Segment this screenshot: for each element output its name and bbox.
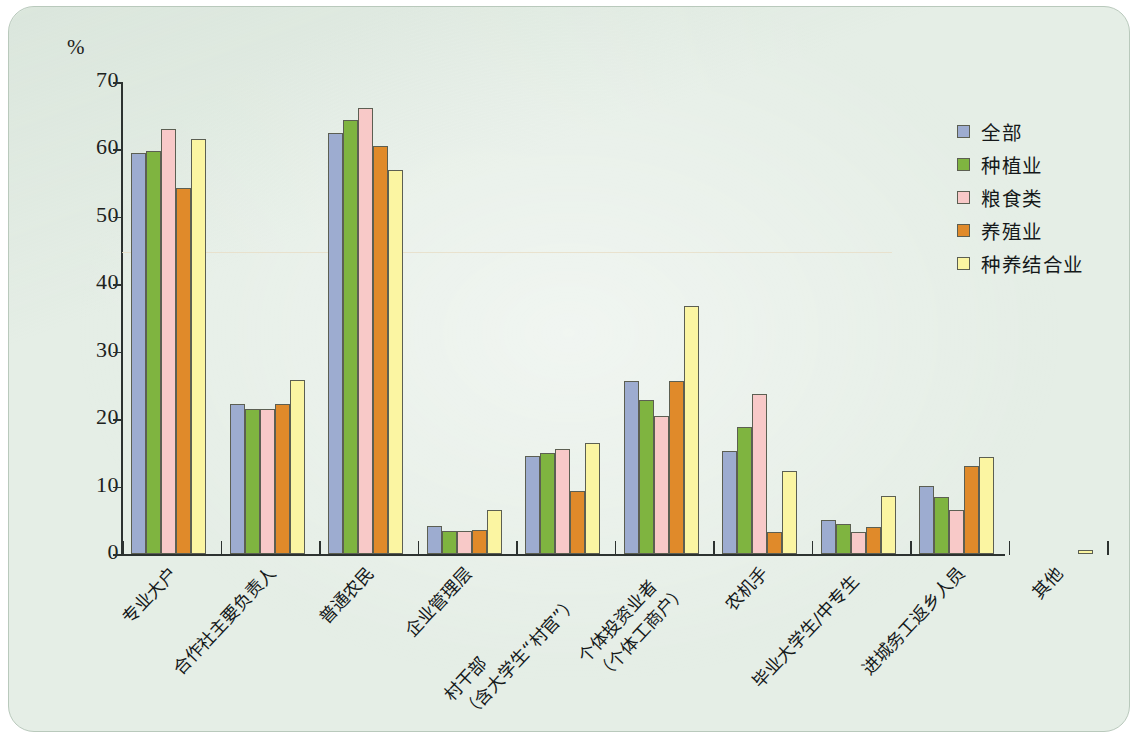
x-axis-category-label: 农机手	[720, 562, 774, 618]
bar	[427, 526, 442, 554]
bar	[964, 466, 979, 554]
legend: 全部种植业粮食类养殖业种养结合业	[957, 115, 1127, 280]
y-axis-tick-label: 40	[59, 269, 119, 295]
x-axis-category-label-line: 其他	[1027, 562, 1069, 605]
bar	[290, 380, 305, 554]
legend-swatch-icon	[957, 224, 970, 237]
legend-item-label: 种养结合业	[981, 249, 1084, 278]
bar-group	[427, 82, 502, 554]
bar	[275, 404, 290, 554]
y-axis-tick: 50	[9, 217, 139, 218]
bar	[639, 400, 654, 554]
bar-group	[525, 82, 600, 554]
bar	[442, 531, 457, 554]
bar	[245, 409, 260, 554]
y-axis-tick-label: 0	[59, 539, 119, 565]
y-axis-tick-mark	[113, 554, 122, 556]
bar	[684, 306, 699, 554]
bar	[472, 530, 487, 554]
bar	[737, 427, 752, 554]
bar-group	[821, 82, 896, 554]
x-axis-category-label: 合作社主要负责人	[168, 562, 282, 682]
bar	[176, 188, 191, 554]
y-axis-tick-label: 20	[59, 404, 119, 430]
bar-group	[624, 82, 699, 554]
x-axis-category-label-line: 专业大户	[117, 562, 183, 631]
bar	[851, 532, 866, 554]
legend-item-label: 养殖业	[981, 216, 1043, 245]
x-axis-category-label-line: 农机手	[720, 562, 774, 618]
x-axis-category-label: 专业大户	[117, 562, 183, 631]
y-axis-tick: 10	[9, 487, 139, 488]
bar	[570, 491, 585, 554]
y-axis-tick-label: 60	[59, 134, 119, 160]
legend-item: 种养结合业	[957, 247, 1127, 280]
x-axis-category-label: 其他	[1027, 562, 1069, 605]
chart-card: % 010203040506070 专业大户合作社主要负责人普通农民企业管理层村…	[8, 6, 1130, 732]
y-axis-tick: 0	[9, 554, 139, 555]
x-axis-category-label: 企业管理层	[400, 562, 478, 643]
legend-swatch-icon	[957, 191, 970, 204]
bar	[767, 532, 782, 554]
bar	[836, 524, 851, 554]
legend-swatch-icon	[957, 125, 970, 138]
legend-item-label: 粮食类	[981, 183, 1043, 212]
y-axis-tick: 30	[9, 352, 139, 353]
x-axis-category-label-line: 进城务工返乡人员	[857, 562, 971, 682]
bar	[624, 381, 639, 554]
x-axis-category-label: 普通农民	[314, 562, 380, 631]
bar	[919, 486, 934, 554]
legend-item-label: 种植业	[981, 150, 1043, 179]
x-axis-category-label-line: 企业管理层	[400, 562, 478, 643]
legend-item: 粮食类	[957, 181, 1127, 214]
bar-group	[230, 82, 305, 554]
legend-item: 种植业	[957, 148, 1127, 181]
y-axis-unit-label: %	[67, 35, 85, 60]
bar	[358, 108, 373, 554]
bar	[669, 381, 684, 554]
bar	[555, 449, 570, 554]
bar	[487, 510, 502, 554]
bar-group	[722, 82, 797, 554]
bar	[230, 404, 245, 554]
x-axis-category-label-line: 普通农民	[314, 562, 380, 631]
bar	[328, 133, 343, 554]
bar	[457, 531, 472, 554]
x-axis-line	[121, 554, 1005, 556]
legend-swatch-icon	[957, 158, 970, 171]
bar	[881, 496, 896, 554]
bar	[585, 443, 600, 554]
legend-item: 全部	[957, 115, 1127, 148]
bar	[866, 527, 881, 554]
bar	[343, 120, 358, 554]
y-axis-tick-label: 10	[59, 472, 119, 498]
y-axis-tick: 60	[9, 149, 139, 150]
bar	[782, 471, 797, 554]
x-axis-tick-mark	[1009, 541, 1011, 555]
bar	[979, 457, 994, 554]
bar	[191, 139, 206, 554]
x-axis-category-label-line: 合作社主要负责人	[168, 562, 282, 682]
bar	[752, 394, 767, 554]
y-axis-tick: 70	[9, 82, 139, 83]
bar	[388, 170, 403, 554]
legend-swatch-icon	[957, 257, 970, 270]
x-axis-category-label: 个体投资业者（个体工商户）	[573, 562, 694, 686]
y-axis-tick-label: 50	[59, 202, 119, 228]
bar	[373, 146, 388, 554]
legend-item: 养殖业	[957, 214, 1127, 247]
bar	[131, 153, 146, 554]
bar	[540, 453, 555, 554]
bar	[161, 129, 176, 554]
bar	[821, 520, 836, 554]
y-axis-tick: 20	[9, 419, 139, 420]
bar	[1078, 550, 1093, 554]
y-axis-tick: 40	[9, 284, 139, 285]
bar	[146, 151, 161, 554]
plot-area	[121, 82, 901, 554]
bar	[525, 456, 540, 554]
bar	[722, 451, 737, 554]
bar	[934, 497, 949, 554]
bar-group	[328, 82, 403, 554]
legend-item-label: 全部	[981, 117, 1022, 146]
